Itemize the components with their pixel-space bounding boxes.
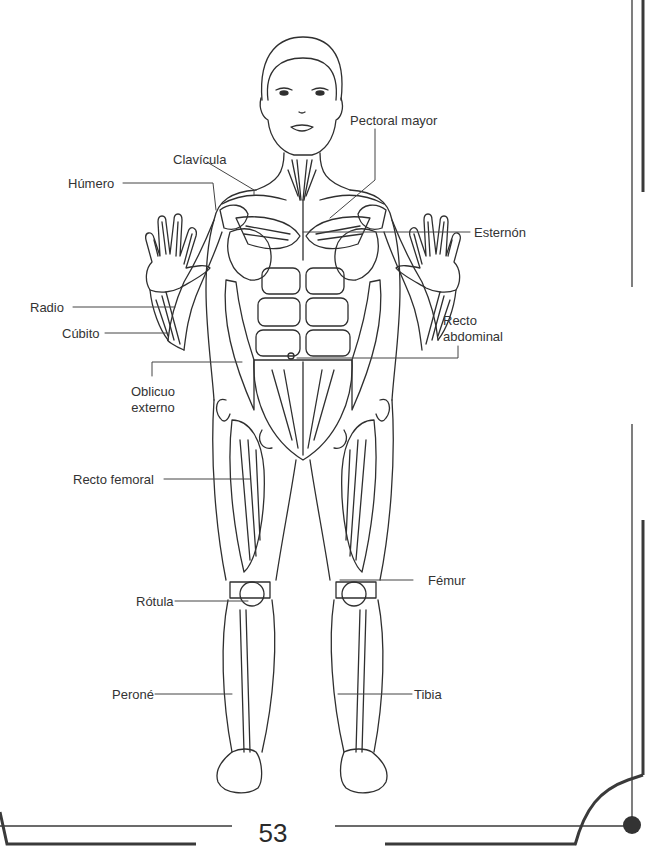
label-rotula: Rótula <box>136 594 174 610</box>
head-drawing <box>260 37 342 155</box>
label-cubito: Cúbito <box>62 326 100 342</box>
page-number: 53 <box>243 818 303 849</box>
label-oblicuo-externo-line1: Oblicuo <box>128 384 178 400</box>
label-radio: Radio <box>30 300 64 316</box>
label-tibia: Tibia <box>414 687 442 703</box>
frame-corner-dot <box>623 816 641 834</box>
label-recto-femoral: Recto femoral <box>73 472 154 488</box>
label-recto-abdominal: Recto abdominal <box>443 313 503 345</box>
label-oblicuo-externo: Oblicuo externo <box>128 384 178 416</box>
page-frame <box>0 0 643 845</box>
label-recto-abdominal-line2: abdominal <box>443 329 503 345</box>
anatomy-page: Clavícula Pectoral mayor Húmero Esternón… <box>0 0 656 850</box>
label-clavicula: Clavícula <box>173 152 226 168</box>
torso-drawing <box>206 190 400 460</box>
label-perone: Peroné <box>112 687 154 703</box>
anatomy-figure <box>0 0 656 850</box>
legs-drawing <box>213 400 394 793</box>
label-oblicuo-externo-line2: externo <box>128 400 178 416</box>
label-femur: Fémur <box>428 573 466 589</box>
label-humero: Húmero <box>68 176 114 192</box>
neck-drawing <box>256 153 350 200</box>
label-esternon: Esternón <box>474 225 526 241</box>
label-pectoral-mayor: Pectoral mayor <box>350 113 437 129</box>
label-recto-abdominal-line1: Recto <box>443 313 503 329</box>
